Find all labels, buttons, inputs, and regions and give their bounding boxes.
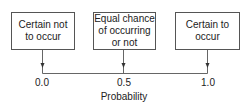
tick-0-5: 0.5 (117, 77, 131, 88)
axis-label: Probability (101, 91, 148, 102)
arrowhead-icons (41, 63, 210, 68)
tick-1: 1.0 (201, 77, 215, 88)
tick-0: 0.0 (35, 77, 49, 88)
